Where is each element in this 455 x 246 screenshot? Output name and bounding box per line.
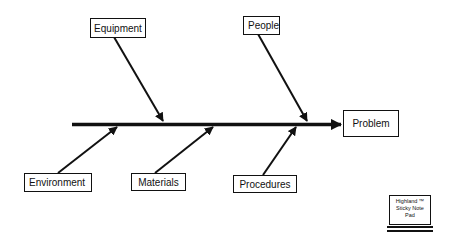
cause-label: Environment — [29, 177, 85, 188]
cause-box-people: People — [243, 16, 280, 35]
sticky-note-line-2: Sticky Note — [390, 205, 430, 212]
cause-label: Procedures — [239, 179, 290, 190]
environment-arrow — [58, 127, 117, 173]
effect-box-problem: Problem — [343, 110, 399, 137]
sticky-note-base-2 — [387, 230, 433, 232]
sticky-note-pad: Highland ™ Sticky Note Pad — [389, 195, 431, 225]
effect-label: Problem — [352, 118, 389, 129]
equipment-arrow — [114, 37, 163, 121]
cause-box-environment: Environment — [24, 173, 92, 192]
sticky-note-base — [387, 226, 433, 228]
cause-label: Materials — [138, 177, 179, 188]
cause-label: Equipment — [94, 23, 142, 34]
materials-arrow — [155, 127, 213, 173]
cause-box-materials: Materials — [131, 173, 186, 191]
cause-label: People — [248, 20, 279, 31]
cause-box-equipment: Equipment — [90, 18, 146, 38]
sticky-note-line-3: Pad — [390, 212, 430, 219]
sticky-note-line-1: Highland ™ — [390, 198, 430, 205]
procedures-arrow — [263, 127, 296, 175]
people-arrow — [258, 34, 307, 121]
cause-box-procedures: Procedures — [233, 175, 297, 193]
